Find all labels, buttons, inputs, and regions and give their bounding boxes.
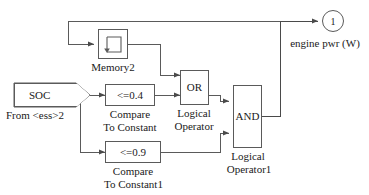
compare-to-constant1-value: <=0.9 [120, 147, 146, 158]
wire-and-to-outport [262, 21, 318, 116]
compare-to-constant-caption-line2: To Constant [96, 122, 164, 134]
logical-operator1-caption-line1: Logical [218, 151, 278, 163]
logical-operator-caption-line2: Operator [163, 121, 225, 133]
outport-label: 1 [331, 16, 336, 27]
from-block-soc-caption: From <ess>2 [6, 110, 98, 122]
memory-block-memory2[interactable] [98, 29, 128, 59]
memory-unit-delay-icon [99, 30, 129, 60]
wire-or-to-and [209, 95, 229, 101]
memory-block-caption: Memory2 [83, 62, 143, 74]
logical-operator-or-block[interactable]: OR [180, 70, 209, 105]
compare-to-constant-block[interactable]: <=0.4 [105, 84, 155, 106]
compare-to-constant1-block[interactable]: <=0.9 [105, 141, 161, 163]
compare-to-constant-caption-line1: Compare [100, 109, 160, 121]
simulink-diagram-canvas: SOC From <ess>2 Memory2 <=0.4 Compare To… [0, 0, 369, 195]
logical-operator-and-label: AND [236, 111, 260, 122]
logical-operator1-caption-line2: Operator1 [215, 164, 283, 176]
outport-block[interactable]: 1 [322, 10, 344, 32]
from-block-soc-label: SOC [29, 89, 50, 101]
logical-operator-caption-line1: Logical [165, 108, 223, 120]
outport-caption: engine pwr (W) [282, 38, 368, 50]
logical-operator-and-block[interactable]: AND [233, 85, 262, 148]
compare-to-constant1-caption-line1: Compare [103, 166, 163, 178]
compare-to-constant1-caption-line2: To Constant1 [96, 179, 171, 191]
from-block-soc[interactable]: SOC [14, 83, 90, 107]
compare-to-constant-value: <=0.4 [117, 90, 143, 101]
wire-compare2-to-and [155, 133, 229, 152]
logical-operator-or-label: OR [187, 82, 202, 93]
